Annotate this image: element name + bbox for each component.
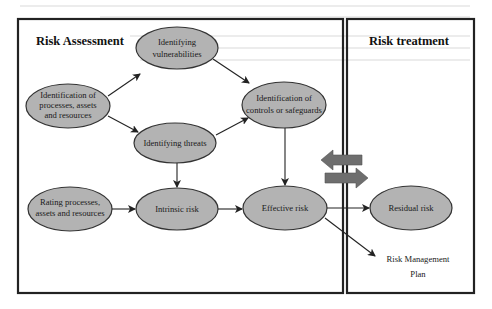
risk-management-plan: Risk Management Plan (387, 254, 450, 279)
svg-text:processes, assets: processes, assets (39, 100, 97, 110)
svg-text:Identifying: Identifying (158, 37, 197, 47)
svg-text:Rating processes,: Rating processes, (40, 197, 100, 207)
svg-text:Risk Management: Risk Management (387, 254, 450, 264)
svg-text:Identification of: Identification of (40, 90, 96, 100)
node-rating: Rating processes, assets and resources (28, 187, 112, 231)
svg-text:Residual risk: Residual risk (388, 203, 434, 213)
node-effective: Effective risk (243, 186, 327, 230)
svg-text:Identification of: Identification of (256, 93, 312, 103)
svg-text:Intrinsic risk: Intrinsic risk (155, 204, 199, 214)
node-controls: Identification of controls or safeguards (242, 82, 326, 128)
risk-diagram: Risk Assessment Risk treatment Identific… (0, 0, 492, 309)
svg-text:vulnerabilities: vulnerabilities (152, 49, 202, 59)
node-vulnerabilities: Identifying vulnerabilities (136, 27, 218, 69)
svg-text:Identifying threats: Identifying threats (143, 138, 207, 148)
svg-text:Effective risk: Effective risk (262, 203, 309, 213)
edge-identification-threats (108, 116, 138, 132)
node-identification: Identification of processes, assets and … (26, 84, 110, 128)
svg-text:controls or safeguards: controls or safeguards (246, 105, 323, 115)
svg-text:and resources: and resources (44, 110, 92, 120)
node-threats: Identifying threats (134, 123, 216, 163)
background-bleed-through (20, 6, 470, 60)
risk-assessment-title: Risk Assessment (36, 34, 125, 48)
edge-effective-plan (325, 218, 375, 256)
edge-threats-controls (216, 118, 248, 135)
edge-vulnerabilities-controls (213, 59, 249, 83)
svg-text:assets and resources: assets and resources (35, 208, 105, 218)
svg-text:Plan: Plan (410, 269, 426, 279)
exchange-arrow-left-icon (321, 150, 362, 170)
node-intrinsic: Intrinsic risk (136, 188, 218, 230)
node-residual: Residual risk (370, 186, 452, 230)
edge-identification-vulnerabilities (108, 74, 140, 96)
risk-treatment-title: Risk treatment (369, 34, 450, 48)
